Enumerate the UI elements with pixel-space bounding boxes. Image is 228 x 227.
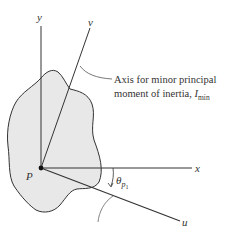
v-axis-label: v xyxy=(88,16,93,28)
caption-i-subscript: min xyxy=(198,93,210,102)
lower-leader-arc xyxy=(98,196,113,222)
caption-line-2-text: moment of inertia, xyxy=(114,88,194,99)
point-p-label: P xyxy=(25,170,33,182)
point-p-dot xyxy=(39,166,44,171)
caption-line-1: Axis for minor principal xyxy=(114,74,216,85)
y-axis-label: y xyxy=(36,11,42,23)
cross-section-region xyxy=(7,70,101,212)
x-axis-label: x xyxy=(194,162,200,174)
angle-label: θp1 xyxy=(116,174,128,190)
caption-line-2: moment of inertia, Imin xyxy=(114,88,210,102)
principal-axes-diagram: y v x u P θp1 Axis for minor principal m… xyxy=(0,0,228,227)
theta-sub-1: 1 xyxy=(125,184,128,190)
u-axis-label: u xyxy=(182,216,188,227)
caption-leader-line xyxy=(80,66,112,79)
